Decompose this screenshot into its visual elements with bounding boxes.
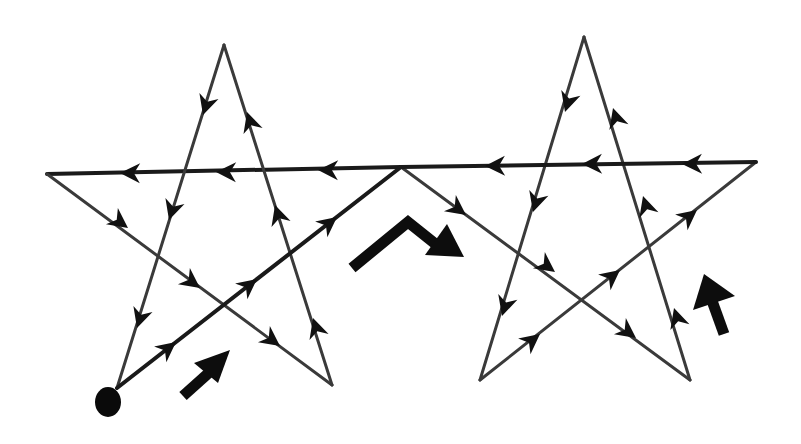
arrowhead-icon — [258, 326, 286, 354]
left-star — [47, 45, 401, 388]
right-star-top-edge — [401, 162, 756, 167]
two-star-path-diagram — [0, 0, 801, 444]
right-star-left-falling-edge — [480, 37, 584, 380]
arrowhead-icon — [444, 195, 472, 223]
arrowhead-icon — [193, 93, 218, 118]
arrowhead-icon — [265, 202, 290, 227]
right-star-right-rising-edge — [584, 37, 690, 380]
arrowhead-icon — [159, 198, 184, 223]
left-star-rising-edge — [117, 167, 401, 388]
start-direction-arrow — [183, 350, 230, 396]
start-point-dot — [95, 387, 121, 417]
right-star-direction-arrow — [693, 274, 735, 334]
right-star-diagonal-edge — [401, 167, 690, 380]
junction-direction-arrow — [352, 222, 464, 268]
